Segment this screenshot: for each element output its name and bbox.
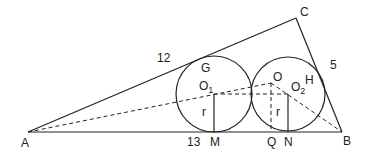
label-B: B: [343, 134, 351, 148]
length-AC: 12: [157, 51, 171, 65]
length-AB: 13: [187, 135, 201, 149]
label-O2: O2: [291, 80, 305, 96]
label-M: M: [210, 135, 220, 149]
label-H: H: [305, 73, 314, 87]
dashed-OB: [271, 83, 342, 132]
geometry-diagram: A B C G H O O1 O2 M Q N 12 5 13 r r: [0, 0, 365, 153]
radius-label-right: r: [276, 105, 280, 119]
radius-label-left: r: [202, 105, 206, 119]
label-A: A: [21, 136, 29, 150]
label-C: C: [300, 5, 309, 19]
dashed-AO: [28, 83, 271, 132]
label-Q: Q: [267, 135, 276, 149]
length-BC: 5: [330, 58, 337, 72]
label-G: G: [201, 61, 210, 75]
label-O: O: [273, 70, 282, 84]
label-O1: O1: [199, 79, 213, 95]
label-N: N: [284, 135, 293, 149]
